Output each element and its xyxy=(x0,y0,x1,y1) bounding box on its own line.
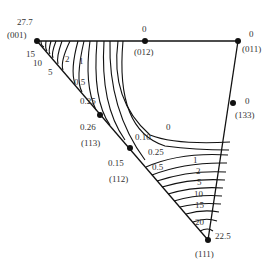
point-012-dot xyxy=(142,38,148,44)
point-133-dot xyxy=(230,100,236,106)
vertex-011-label: (011) xyxy=(242,44,261,54)
point-133-label: (133) xyxy=(235,110,255,120)
point-113-value: 0.26 xyxy=(80,122,96,132)
point-012-value: 0 xyxy=(142,24,147,34)
vertex-011-dot xyxy=(235,38,241,44)
contour-label-1b: 1 xyxy=(193,155,198,165)
contour-label-2: 2 xyxy=(65,54,70,64)
contour-label-1: 1 xyxy=(79,56,84,66)
contour-label-0: 0 xyxy=(166,122,171,132)
contour-label-0-5: 0.5 xyxy=(74,77,86,87)
vertex-001-label: (001) xyxy=(7,30,27,40)
contour-label-15b: 15 xyxy=(195,200,205,210)
point-112-label: (112) xyxy=(109,174,128,184)
pole-figure-diagram: 27.7 (001) 0 (011) 22.5 (111) 0 (012) 0 … xyxy=(0,0,269,273)
contour-label-10: 10 xyxy=(33,58,43,68)
contour-label-0-25: 0.25 xyxy=(80,96,96,106)
vertex-001-dot xyxy=(34,38,40,44)
contour-label-0-25b: 0.25 xyxy=(148,147,164,157)
edge-011-111 xyxy=(208,41,238,240)
contour-label-10b: 10 xyxy=(194,189,204,199)
point-113-label: (113) xyxy=(81,138,100,148)
point-133-value: 0 xyxy=(245,96,250,106)
vertex-111-dot xyxy=(205,237,211,243)
contour-label-0-10: 0.10 xyxy=(135,132,151,142)
contour-label-0-5b: 0.5 xyxy=(152,162,164,172)
vertex-111-label: (111) xyxy=(195,249,214,259)
vertex-011-value: 0 xyxy=(249,29,254,39)
point-012-label: (012) xyxy=(134,47,154,57)
contour-label-5b: 5 xyxy=(197,177,202,187)
contour-label-20: 20 xyxy=(195,217,205,227)
contours-mid xyxy=(117,41,230,150)
point-113-dot xyxy=(97,112,103,118)
contour-label-2b: 2 xyxy=(196,166,201,176)
contour-label-5: 5 xyxy=(48,67,53,77)
point-112-value: 0.15 xyxy=(108,158,124,168)
point-112-dot xyxy=(127,145,133,151)
vertex-111-value: 22.5 xyxy=(215,231,231,241)
vertex-001-value: 27.7 xyxy=(17,17,33,27)
